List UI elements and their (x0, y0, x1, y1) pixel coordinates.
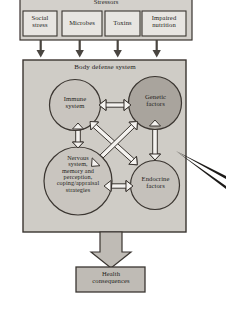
stressor-label-social-stress: Social stress (23, 15, 57, 28)
flow-arrow-down-1 (37, 40, 45, 58)
flow-arrow-to-health-consequences (91, 232, 131, 268)
diagram-canvas: Stressors Social stress Microbes Toxins … (0, 0, 226, 315)
body-defense-system-label: Body defense system (30, 64, 180, 71)
diagram-svg (0, 0, 226, 315)
flow-arrow-down-3 (114, 40, 122, 58)
stressor-label-microbes: Microbes (62, 20, 102, 27)
node-label-nervous-system: Nervous system, memory and perception, c… (44, 155, 112, 193)
node-label-genetic-factors: Genetic factors (133, 94, 178, 107)
node-label-endocrine-factors: Endocrine factors (133, 176, 178, 189)
stressors-group-label: Stressors (20, 0, 192, 6)
flow-arrow-down-4 (153, 40, 161, 58)
node-label-immune-system: Immune system (52, 96, 98, 109)
health-consequences-label: Health consequences (78, 271, 144, 284)
flow-arrow-down-2 (76, 40, 84, 58)
stressor-label-toxins: Toxins (105, 20, 140, 27)
stressor-label-impaired-nutrition: Impaired nutrition (142, 15, 186, 28)
